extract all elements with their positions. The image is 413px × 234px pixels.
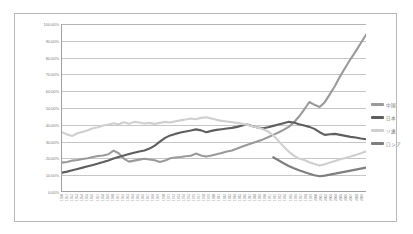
y-axis-tick-label: 80.00%: [21, 55, 59, 60]
series-line: [62, 35, 366, 163]
y-axis-tick-label: 100.00%: [21, 22, 59, 27]
chart-plot-wrapper: 100.00%90.00%80.00%70.00%60.00%50.00%40.…: [15, 14, 398, 223]
plot-area: [61, 24, 366, 192]
y-axis-labels: 100.00%90.00%80.00%70.00%60.00%50.00%40.…: [21, 24, 59, 192]
y-axis-tick-label: 70.00%: [21, 72, 59, 77]
legend-label: 中国: [386, 102, 396, 108]
legend-item[interactable]: ソ連: [371, 124, 413, 137]
y-axis-tick-label: 0.00%: [21, 190, 59, 195]
legend-label: ソ連: [386, 128, 396, 134]
legend-color-swatch: [371, 129, 384, 132]
series-line: [62, 117, 366, 165]
x-axis-labels: 1950195119521953195419551956195719581959…: [61, 194, 366, 222]
legend-color-swatch: [371, 103, 384, 106]
legend-label: 日本: [386, 115, 396, 121]
y-axis-tick-label: 10.00%: [21, 173, 59, 178]
legend-label: ロシア: [386, 141, 401, 147]
y-axis-tick-label: 30.00%: [21, 139, 59, 144]
legend-item[interactable]: 中国: [371, 98, 413, 111]
series-lines: [62, 24, 366, 191]
y-axis-tick-label: 40.00%: [21, 122, 59, 127]
legend-item[interactable]: 日本: [371, 111, 413, 124]
y-axis-tick-label: 20.00%: [21, 156, 59, 161]
series-line: [273, 157, 366, 176]
y-axis-tick-label: 90.00%: [21, 38, 59, 43]
y-axis-tick-label: 50.00%: [21, 106, 59, 111]
chart-frame: 100.00%90.00%80.00%70.00%60.00%50.00%40.…: [14, 13, 397, 222]
legend-item[interactable]: ロシア: [371, 137, 413, 150]
chart-legend: 中国日本ソ連ロシア: [371, 98, 413, 150]
x-axis-tick-label: 2009: [361, 194, 366, 201]
legend-color-swatch: [371, 116, 384, 119]
y-axis-tick-label: 60.00%: [21, 89, 59, 94]
legend-color-swatch: [371, 142, 384, 145]
